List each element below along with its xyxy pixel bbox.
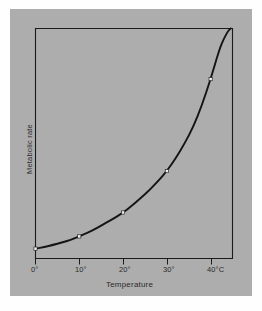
x-tick-label-20: 20° bbox=[119, 266, 131, 274]
x-tick-label-0: 0° bbox=[31, 266, 38, 274]
figure-root: 0° 10° 20° 30° 40°C Temperature Metaboli… bbox=[0, 0, 262, 311]
data-point-0 bbox=[34, 247, 37, 250]
y-axis-title: Metabolic rate bbox=[26, 124, 34, 174]
figure-card: 0° 10° 20° 30° 40°C Temperature Metaboli… bbox=[10, 9, 252, 296]
data-point-40 bbox=[209, 78, 212, 81]
chart-canvas bbox=[10, 9, 252, 296]
metabolic-rate-curve bbox=[36, 29, 231, 249]
data-point-markers bbox=[34, 78, 212, 251]
x-tick-label-40: 40°C bbox=[207, 266, 224, 274]
x-axis-ticks bbox=[36, 259, 212, 265]
data-point-20 bbox=[121, 211, 124, 214]
x-axis-title: Temperature bbox=[106, 281, 153, 289]
plot-frame bbox=[36, 29, 233, 259]
axis-frame bbox=[36, 29, 233, 259]
x-tick-label-30: 30° bbox=[163, 266, 175, 274]
x-tick-label-10: 10° bbox=[75, 266, 87, 274]
data-point-10 bbox=[78, 235, 81, 238]
data-point-30 bbox=[165, 170, 168, 173]
metabolic-rate-chart: 0° 10° 20° 30° 40°C Temperature Metaboli… bbox=[10, 9, 252, 296]
